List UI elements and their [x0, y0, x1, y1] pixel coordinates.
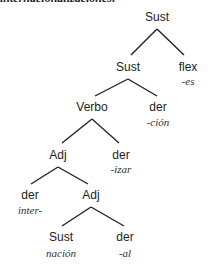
node-der-cion: der — [149, 100, 166, 114]
node-adj: Adj — [49, 148, 66, 162]
tree-branches — [0, 0, 210, 271]
node-sust-nacion: Sust — [49, 230, 73, 244]
morph-izar: -izar — [111, 163, 132, 175]
morph-al: -al — [119, 247, 131, 259]
node-sust: Sust — [116, 60, 140, 74]
node-verbo: Verbo — [76, 100, 107, 114]
morph-es: -es — [182, 75, 195, 87]
morph-nacion: nación — [46, 247, 76, 259]
morph-cion: -ción — [147, 116, 170, 128]
node-root-sust: Sust — [145, 10, 169, 24]
node-adj-lower: Adj — [82, 188, 99, 202]
morph-inter: inter- — [18, 204, 42, 216]
node-flex: flex — [179, 60, 198, 74]
node-der-al: der — [116, 230, 133, 244]
node-der-inter: der — [21, 188, 38, 202]
node-der-izar: der — [112, 148, 129, 162]
